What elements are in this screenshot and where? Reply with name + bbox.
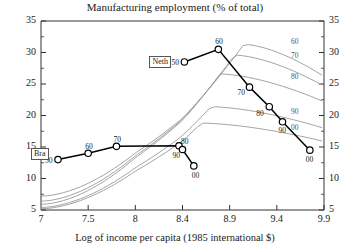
y-axis-tick-right: 30	[329, 46, 339, 57]
data-point-label: 00	[306, 155, 314, 164]
y-axis-tick-right: 20	[329, 109, 339, 120]
cross-section-curve-label: 60	[291, 37, 299, 46]
cross-section-curve-label: 80	[291, 72, 299, 81]
chart-figure: Manufacturing employment (% of total) Lo…	[0, 0, 350, 252]
y-axis-tick-right: 35	[329, 14, 339, 25]
y-axis-tick-left: 25	[16, 77, 36, 88]
y-axis-tick-left: 35	[16, 14, 36, 25]
x-axis-tick: 7	[25, 213, 57, 224]
y-axis-tick-left: 20	[16, 109, 36, 120]
cross-section-curve-label: 90	[291, 107, 299, 116]
data-point-label: 80	[256, 109, 264, 118]
y-axis-tick-right: 15	[329, 140, 339, 151]
y-axis-tick-left: 10	[16, 172, 36, 183]
y-axis-tick-right: 25	[329, 77, 339, 88]
data-point-label: 70	[237, 88, 245, 97]
x-axis-tick: 8.4	[167, 213, 199, 224]
x-axis-tick: 8	[119, 213, 151, 224]
x-axis-tick: 7.5	[72, 213, 104, 224]
x-axis-tick: 8.9	[214, 213, 246, 224]
data-point-label: 90	[278, 126, 286, 135]
data-point-label: 00	[192, 171, 200, 180]
x-axis-tick: 9.9	[308, 213, 340, 224]
data-point-label: 60	[215, 37, 223, 46]
y-axis-tick-left: 30	[16, 46, 36, 57]
y-axis-tick-right: 10	[329, 172, 339, 183]
data-point-label: 90	[173, 151, 181, 160]
data-point-label: 60	[85, 142, 93, 151]
x-axis-label: Log of income per capita (1985 internati…	[0, 232, 350, 243]
data-point-label: 80	[181, 137, 189, 146]
series-label-neth: Neth	[149, 56, 171, 68]
cross-section-curve-label: 70	[291, 51, 299, 60]
series-label-bra: Bra	[31, 148, 49, 160]
x-axis-tick: 9.4	[261, 213, 293, 224]
data-point-label: 50	[171, 58, 179, 67]
cross-section-curve-label: 00	[291, 123, 299, 132]
data-point-label: 70	[113, 135, 121, 144]
